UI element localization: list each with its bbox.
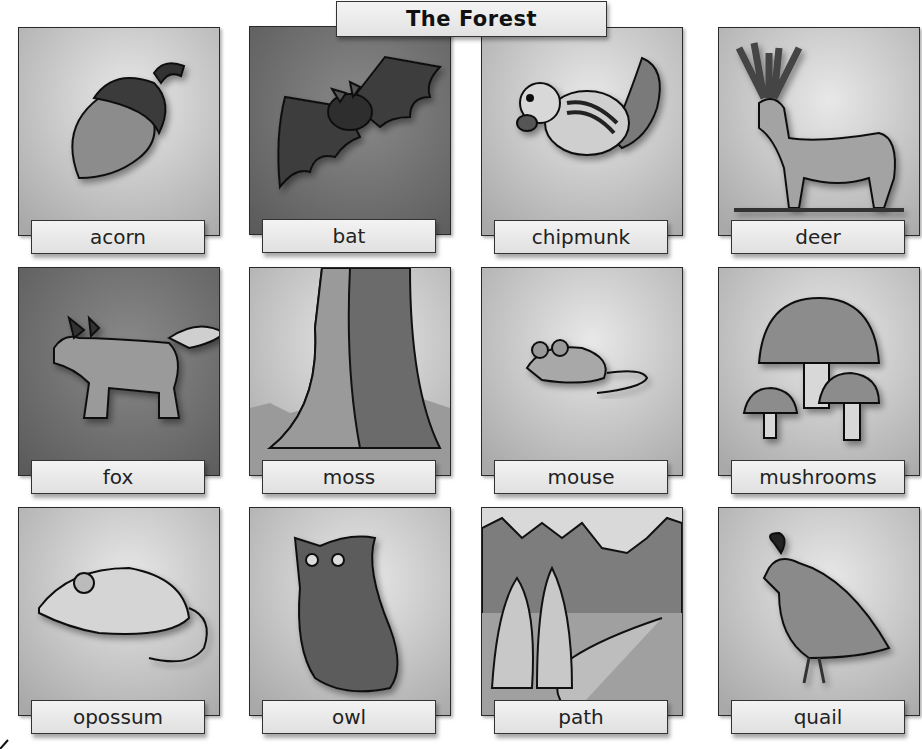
card-chipmunk[interactable]: chipmunk [481, 27, 683, 236]
card-label: mushrooms [731, 460, 905, 494]
card-quail[interactable]: quail [718, 507, 920, 716]
bat-icon [249, 26, 451, 235]
card-opossum[interactable]: opossum [18, 507, 220, 716]
card-fox[interactable]: fox [18, 267, 220, 476]
card-label: owl [262, 700, 436, 734]
acorn-icon [18, 27, 220, 236]
card-label: deer [731, 220, 905, 254]
forest-path-icon [481, 507, 683, 716]
card-label: acorn [31, 220, 205, 254]
deer-icon [718, 27, 920, 236]
quail-icon [718, 507, 920, 716]
card-bat[interactable]: bat [249, 26, 451, 235]
card-owl[interactable]: owl [249, 507, 451, 716]
card-label: fox [31, 460, 205, 494]
card-acorn[interactable]: acorn [18, 27, 220, 236]
card-label: opossum [31, 700, 205, 734]
opossum-icon [18, 507, 220, 716]
card-mouse[interactable]: mouse [481, 267, 683, 476]
card-label: mouse [494, 460, 668, 494]
card-label: quail [731, 700, 905, 734]
card-mushrooms[interactable]: mushrooms [718, 267, 920, 476]
fox-icon [18, 267, 220, 476]
page-title: The Forest [336, 1, 607, 37]
card-moss[interactable]: moss [249, 267, 451, 476]
mushrooms-icon [718, 267, 920, 476]
chipmunk-icon [481, 27, 683, 236]
mouse-icon [481, 267, 683, 476]
card-label: bat [262, 219, 436, 253]
card-path[interactable]: path [481, 507, 683, 716]
card-deer[interactable]: deer [718, 27, 920, 236]
check-mark-icon [0, 738, 10, 749]
card-label: chipmunk [494, 220, 668, 254]
owl-icon [249, 507, 451, 716]
card-label: moss [262, 460, 436, 494]
moss-tree-icon [249, 267, 451, 476]
card-label: path [494, 700, 668, 734]
